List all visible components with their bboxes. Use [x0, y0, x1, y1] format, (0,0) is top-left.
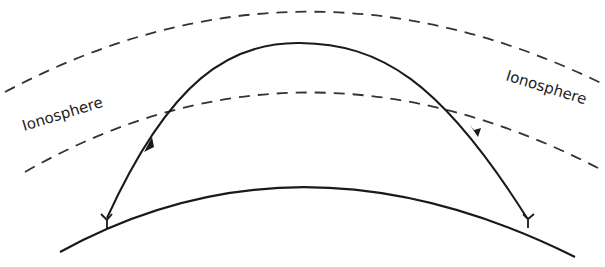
- earth-surface: [60, 187, 575, 257]
- ionosphere-diagram: Ionosphere Ionosphere: [0, 0, 605, 267]
- radio-ray-path: [107, 43, 527, 218]
- arrow-down-icon: [470, 125, 481, 137]
- receiver-antenna-icon: [523, 214, 534, 228]
- ionosphere-label-right: Ionosphere: [504, 67, 589, 109]
- ionosphere-label-left: Ionosphere: [20, 93, 105, 135]
- inner-ionosphere-boundary: [25, 92, 598, 172]
